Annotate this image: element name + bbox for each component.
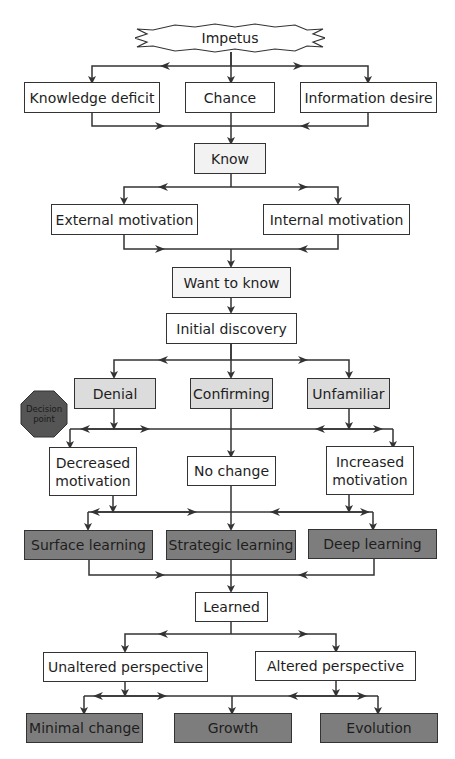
node-knowledge-deficit: Knowledge deficit xyxy=(24,82,160,113)
node-label: Unfamiliar xyxy=(312,385,384,403)
decision-point: Decisionpoint xyxy=(20,390,68,438)
node-label: Information desire xyxy=(304,89,432,107)
node-label: Increased motivation xyxy=(327,453,413,489)
node-label: Chance xyxy=(204,89,256,107)
node-deep-learning: Deep learning xyxy=(308,529,437,559)
node-label: Surface learning xyxy=(31,536,146,554)
node-learned: Learned xyxy=(195,592,268,622)
node-label: Know xyxy=(211,150,249,168)
node-unaltered-perspective: Unaltered perspective xyxy=(43,652,208,682)
node-decreased-motivation: Decreased motivation xyxy=(49,447,137,496)
node-label: Unaltered perspective xyxy=(48,658,203,676)
node-evolution: Evolution xyxy=(320,713,438,743)
node-label: Decreased motivation xyxy=(50,454,136,490)
learning-flowchart: Impetus Knowledge deficit Chance Informa… xyxy=(0,0,455,759)
node-no-change: No change xyxy=(187,456,276,486)
node-label: Initial discovery xyxy=(176,320,286,338)
node-label: Altered perspective xyxy=(267,657,404,675)
decision-line2: point xyxy=(33,414,55,424)
node-label: Strategic learning xyxy=(169,536,294,554)
node-label: Confirming xyxy=(193,385,270,403)
impetus-label: Impetus xyxy=(202,30,259,46)
node-label: External motivation xyxy=(56,211,194,229)
node-label: Denial xyxy=(93,385,138,403)
node-label: Want to know xyxy=(184,274,280,292)
node-internal-motivation: Internal motivation xyxy=(263,204,410,235)
node-label: Evolution xyxy=(346,719,411,737)
node-unfamiliar: Unfamiliar xyxy=(307,378,390,409)
node-label: Learned xyxy=(203,598,260,616)
node-growth: Growth xyxy=(174,713,292,743)
node-label: Growth xyxy=(208,719,259,737)
node-denial: Denial xyxy=(74,378,156,409)
node-know: Know xyxy=(194,143,266,174)
node-minimal-change: Minimal change xyxy=(26,713,143,743)
node-surface-learning: Surface learning xyxy=(24,530,153,560)
node-label: No change xyxy=(194,462,269,480)
node-label: Internal motivation xyxy=(270,211,404,229)
node-increased-motivation: Increased motivation xyxy=(326,446,414,495)
node-altered-perspective: Altered perspective xyxy=(255,651,416,681)
decision-point-label: Decisionpoint xyxy=(26,404,62,424)
node-label: Knowledge deficit xyxy=(30,89,155,107)
node-chance: Chance xyxy=(185,82,275,113)
node-external-motivation: External motivation xyxy=(51,204,198,235)
node-want-to-know: Want to know xyxy=(172,267,291,298)
node-strategic-learning: Strategic learning xyxy=(166,530,296,560)
decision-line1: Decision xyxy=(26,404,62,414)
impetus-node: Impetus xyxy=(135,22,325,54)
node-information-desire: Information desire xyxy=(300,82,437,113)
node-confirming: Confirming xyxy=(190,378,273,409)
node-label: Minimal change xyxy=(29,719,140,737)
node-label: Deep learning xyxy=(323,535,421,553)
node-initial-discovery: Initial discovery xyxy=(166,313,297,344)
